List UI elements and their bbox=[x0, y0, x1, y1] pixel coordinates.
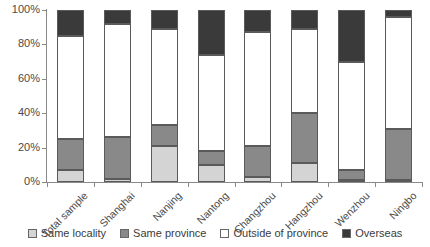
bar-group bbox=[104, 10, 131, 182]
y-axis-tick-label: 100% bbox=[12, 4, 40, 15]
x-axis-tick-mark bbox=[375, 183, 376, 187]
y-axis-tick-mark bbox=[42, 10, 47, 11]
bar-segment bbox=[198, 165, 225, 182]
legend-label: Overseas bbox=[355, 227, 402, 239]
bar-segment bbox=[338, 170, 365, 180]
legend-item: Same locality bbox=[28, 227, 106, 239]
stacked-bar-chart: 0%20%40%60%80%100% Same localitySame pro… bbox=[0, 0, 430, 247]
legend-swatch-icon bbox=[220, 229, 229, 238]
bar-segment bbox=[104, 24, 131, 138]
bar-segment bbox=[104, 10, 131, 24]
bar-group bbox=[338, 10, 365, 182]
bar-group bbox=[385, 10, 412, 182]
x-axis-tick-mark bbox=[188, 183, 189, 187]
y-axis-tick-mark bbox=[42, 148, 47, 149]
bar-segment bbox=[198, 55, 225, 151]
bar-segment bbox=[57, 170, 84, 182]
chart-legend: Same localitySame provinceOutside of pro… bbox=[0, 224, 430, 242]
bar-segment bbox=[338, 62, 365, 170]
x-axis-category-label: Nanjing bbox=[151, 190, 184, 223]
bar-segment bbox=[244, 10, 271, 32]
bar-segment bbox=[385, 129, 412, 181]
y-axis-tick-label: 80% bbox=[18, 38, 40, 49]
bar-segment bbox=[385, 17, 412, 129]
bar-segment bbox=[151, 125, 178, 146]
x-axis-tick-mark bbox=[141, 183, 142, 187]
legend-label: Outside of province bbox=[233, 227, 328, 239]
bar-segment bbox=[57, 36, 84, 139]
bar-segment bbox=[57, 139, 84, 170]
bar-segment bbox=[244, 32, 271, 146]
y-axis-tick-labels: 0%20%40%60%80%100% bbox=[0, 0, 40, 247]
y-axis-tick-mark bbox=[42, 113, 47, 114]
legend-label: Same province bbox=[133, 227, 206, 239]
bar-segment bbox=[338, 10, 365, 62]
x-axis-tick-mark bbox=[422, 183, 423, 187]
x-axis-tick-mark bbox=[94, 183, 95, 187]
bar-segment bbox=[291, 10, 318, 29]
x-axis-tick-mark bbox=[328, 183, 329, 187]
bar-segment bbox=[291, 29, 318, 113]
legend-item: Overseas bbox=[342, 227, 402, 239]
bar-group bbox=[244, 10, 271, 182]
plot-area bbox=[47, 10, 422, 182]
bar-group bbox=[198, 10, 225, 182]
legend-swatch-icon bbox=[28, 229, 37, 238]
bar-segment bbox=[151, 146, 178, 182]
bar-segment bbox=[198, 151, 225, 165]
bar-segment bbox=[338, 180, 365, 182]
bar-segment bbox=[291, 163, 318, 182]
y-axis-tick-label: 20% bbox=[18, 142, 40, 153]
bar-segment bbox=[104, 179, 131, 182]
x-axis-category-label: Nantong bbox=[195, 190, 231, 226]
x-axis-category-label: Ningbo bbox=[387, 190, 418, 221]
bar-segment bbox=[57, 10, 84, 36]
x-axis-tick-mark bbox=[47, 183, 48, 187]
x-axis-tick-mark bbox=[235, 183, 236, 187]
legend-swatch-icon bbox=[120, 229, 129, 238]
legend-swatch-icon bbox=[342, 229, 351, 238]
legend-item: Same province bbox=[120, 227, 206, 239]
bar-segment bbox=[244, 177, 271, 182]
y-axis-tick-mark bbox=[42, 79, 47, 80]
bar-segment bbox=[385, 180, 412, 182]
y-axis-tick-label: 0% bbox=[24, 176, 40, 187]
bar-segment bbox=[104, 137, 131, 178]
bar-segment bbox=[244, 146, 271, 177]
bar-group bbox=[151, 10, 178, 182]
bar-group bbox=[57, 10, 84, 182]
bar-segment bbox=[385, 10, 412, 17]
bar-segment bbox=[151, 10, 178, 29]
bar-segment bbox=[151, 29, 178, 125]
y-axis-tick-mark bbox=[42, 44, 47, 45]
bar-group bbox=[291, 10, 318, 182]
y-axis-tick-label: 60% bbox=[18, 73, 40, 84]
y-axis-tick-label: 40% bbox=[18, 107, 40, 118]
bar-segment bbox=[198, 10, 225, 55]
x-axis-tick-mark bbox=[281, 183, 282, 187]
bar-segment bbox=[291, 113, 318, 163]
